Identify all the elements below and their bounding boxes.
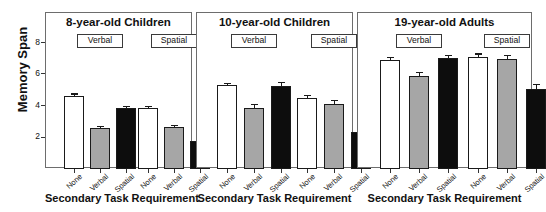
panel-19-year-old-adults: 19-year-old AdultsVerbalSpatial xyxy=(357,12,532,168)
y-tick-label-6: 6 xyxy=(28,69,40,78)
error-bar-cap xyxy=(445,55,452,56)
error-bar-cap xyxy=(416,72,423,73)
x-tick-mark xyxy=(536,169,537,173)
x-axis-title-panel-1: Secondary Task Requirement xyxy=(196,192,353,204)
error-bar-cap xyxy=(331,100,338,101)
error-bar-cap xyxy=(387,57,394,58)
error-bar-cap xyxy=(71,93,78,94)
bar-verbal xyxy=(324,104,344,169)
group-label-box-spatial: Spatial xyxy=(311,34,357,48)
x-tick-mark xyxy=(419,169,420,173)
x-tick-mark xyxy=(361,169,362,173)
group-label-box-verbal: Verbal xyxy=(396,34,442,48)
x-tick-mark xyxy=(254,169,255,173)
group-label-box-spatial: Spatial xyxy=(484,34,530,48)
error-bar-cap xyxy=(475,53,482,54)
bar-none xyxy=(468,57,488,170)
bar-spatial xyxy=(526,89,546,169)
x-tick-mark xyxy=(174,169,175,173)
bar-none xyxy=(297,98,317,169)
bar-spatial xyxy=(438,58,458,169)
panel-10-year-old-children: 10-year-old ChildrenVerbalSpatial xyxy=(196,12,353,168)
bar-spatial xyxy=(116,108,136,169)
error-bar-cap xyxy=(504,55,511,56)
group-label-box-spatial: Spatial xyxy=(151,34,197,48)
error-bar-cap xyxy=(304,95,311,96)
x-tick-mark xyxy=(478,169,479,173)
bar-verbal xyxy=(409,76,429,170)
y-tick-label-2: 2 xyxy=(28,132,40,141)
bar-verbal xyxy=(244,108,264,170)
group-label-box-verbal: Verbal xyxy=(231,34,277,48)
y-tick-label-8: 8 xyxy=(28,38,40,47)
error-bar-cap xyxy=(97,126,104,127)
y-tick-label-4: 4 xyxy=(28,101,40,110)
x-tick-mark xyxy=(507,169,508,173)
x-tick-mark xyxy=(148,169,149,173)
bar-verbal xyxy=(497,59,517,169)
error-bar-cap xyxy=(145,106,152,107)
figure-panel-chart: Memory Span 8 6 4 2 8-year-old ChildrenV… xyxy=(0,0,546,212)
bar-none xyxy=(138,108,158,170)
bar-none xyxy=(64,96,84,170)
x-tick-mark xyxy=(307,169,308,173)
x-tick-mark xyxy=(390,169,391,173)
error-bar-cap xyxy=(251,104,258,105)
x-tick-mark xyxy=(126,169,127,173)
x-tick-mark xyxy=(227,169,228,173)
x-tick-mark xyxy=(200,169,201,173)
x-axis-title-panel-2: Secondary Task Requirement xyxy=(357,192,532,204)
group-label-box-verbal: Verbal xyxy=(77,34,123,48)
error-bar-cap xyxy=(224,83,231,84)
error-bar-cap xyxy=(533,84,540,85)
bar-none xyxy=(380,60,400,169)
x-tick-mark xyxy=(100,169,101,173)
x-tick-mark xyxy=(74,169,75,173)
panel-title: 10-year-old Children xyxy=(197,16,352,28)
x-tick-mark xyxy=(281,169,282,173)
panel-8-year-old-children: 8-year-old ChildrenVerbalSpatial xyxy=(45,12,192,168)
error-bar-cap xyxy=(123,106,130,107)
bar-verbal xyxy=(90,128,110,169)
bar-none xyxy=(217,85,237,170)
error-bar-cap xyxy=(171,125,178,126)
error-bar-cap xyxy=(278,82,285,83)
bar-spatial xyxy=(271,86,291,169)
bar-verbal xyxy=(164,127,184,169)
x-tick-mark xyxy=(334,169,335,173)
panel-title: 8-year-old Children xyxy=(46,16,191,28)
panel-title: 19-year-old Adults xyxy=(358,16,531,28)
x-tick-mark xyxy=(448,169,449,173)
